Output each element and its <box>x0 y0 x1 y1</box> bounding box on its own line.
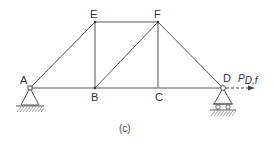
figure-caption: (c) <box>119 123 131 134</box>
node-label-a: A <box>20 74 28 86</box>
member-fd <box>158 22 223 88</box>
node-label-b: B <box>91 91 98 103</box>
load-arrow-icon <box>226 86 255 91</box>
node-label-d: D <box>223 72 231 84</box>
truss-diagram: A B C D E F PD,f (c) <box>0 0 273 148</box>
node-label-c: C <box>155 91 163 103</box>
joint-f <box>157 21 159 23</box>
joint-e <box>94 21 96 23</box>
load-label: PD,f <box>238 73 259 86</box>
member-bf <box>95 22 158 88</box>
node-label-e: E <box>90 8 97 20</box>
node-label-f: F <box>154 8 161 20</box>
joint-b <box>94 87 96 89</box>
roller-support-icon <box>210 86 236 116</box>
member-ae <box>30 22 95 88</box>
load-label-sub: D,f <box>245 75 259 86</box>
truss-members <box>30 22 223 88</box>
pin-support-icon <box>16 86 44 112</box>
